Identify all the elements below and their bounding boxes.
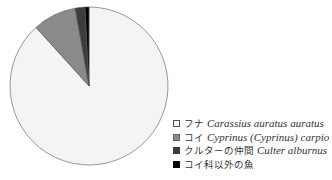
legend-label-latin: Culter alburnus (257, 144, 327, 158)
legend-swatch (173, 147, 180, 154)
legend-label-jp: コイ科以外の魚 (184, 158, 254, 172)
legend-item-funa: フナ Carassius auratus auratus (173, 117, 329, 131)
legend-item-culter: クルターの仲間 Culter alburnus (173, 144, 329, 158)
legend: フナ Carassius auratus auratus コイ Cyprinus… (173, 117, 329, 171)
legend-swatch (173, 120, 180, 127)
pie-chart (0, 0, 180, 180)
legend-label-latin: Carassius auratus auratus (207, 117, 324, 131)
legend-label-jp: クルターの仲間 (184, 144, 254, 158)
legend-label-jp: フナ (184, 117, 204, 131)
legend-swatch (173, 161, 180, 168)
legend-item-other: コイ科以外の魚 (173, 158, 329, 172)
legend-label-latin: Cyprinus (Cyprinus) carpio (207, 131, 329, 145)
legend-swatch (173, 134, 180, 141)
legend-item-koi: コイ Cyprinus (Cyprinus) carpio (173, 131, 329, 145)
legend-label-jp: コイ (184, 131, 204, 145)
